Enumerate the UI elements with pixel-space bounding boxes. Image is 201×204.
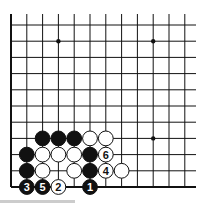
move-number: 5 — [40, 181, 46, 193]
white-stone — [51, 147, 66, 162]
black-stone — [67, 131, 82, 146]
black-stone — [83, 147, 98, 162]
stone-disc — [35, 131, 50, 146]
stone-disc — [51, 147, 66, 162]
move-number: 6 — [103, 149, 109, 161]
stone-disc — [35, 147, 50, 162]
white-stone: 6 — [98, 147, 113, 162]
go-board: 643521 — [0, 0, 201, 204]
white-stone — [67, 163, 82, 178]
move-number: 2 — [55, 181, 61, 193]
stone-disc — [19, 147, 34, 162]
stone-disc — [19, 163, 34, 178]
black-stone — [51, 131, 66, 146]
white-stone: 2 — [51, 180, 66, 195]
black-stone: 5 — [35, 180, 50, 195]
black-stone: 3 — [19, 180, 34, 195]
stone-disc — [67, 163, 82, 178]
black-stone — [83, 163, 98, 178]
stone-disc — [98, 131, 113, 146]
stone-disc — [51, 131, 66, 146]
stone-disc — [114, 163, 129, 178]
white-stone — [98, 131, 113, 146]
black-stone — [35, 131, 50, 146]
white-stone — [35, 147, 50, 162]
white-stone: 4 — [98, 163, 113, 178]
scan-artifact — [0, 200, 75, 203]
star-point — [151, 136, 155, 140]
stone-disc — [83, 147, 98, 162]
move-number: 3 — [24, 181, 30, 193]
white-stone — [67, 147, 82, 162]
white-stone — [83, 131, 98, 146]
move-number: 1 — [87, 181, 93, 193]
star-point — [56, 39, 60, 43]
stone-disc — [35, 163, 50, 178]
stone-disc — [83, 163, 98, 178]
star-point — [151, 39, 155, 43]
white-stone — [35, 163, 50, 178]
black-stone — [19, 163, 34, 178]
white-stone — [114, 163, 129, 178]
stone-disc — [67, 131, 82, 146]
stone-disc — [67, 147, 82, 162]
move-number: 4 — [103, 165, 110, 177]
stone-disc — [83, 131, 98, 146]
black-stone: 1 — [83, 180, 98, 195]
black-stone — [19, 147, 34, 162]
